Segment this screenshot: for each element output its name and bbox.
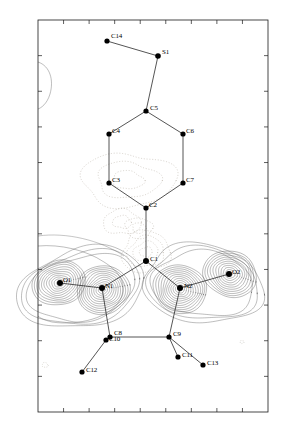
atom-label-C11: C11 <box>182 352 193 359</box>
atom-label-O1: O1 <box>63 277 71 284</box>
atom-label-C1: C1 <box>150 256 158 263</box>
density-map-canvas <box>0 0 282 432</box>
atom-C10 <box>103 337 108 342</box>
atom-label-C6: C6 <box>186 128 194 135</box>
atom-C1 <box>143 258 149 264</box>
atom-label-N2: N2 <box>184 283 192 290</box>
atom-label-C4: C4 <box>112 128 120 135</box>
atom-C6 <box>180 131 185 136</box>
atom-label-S1: S1 <box>162 49 169 56</box>
deformation-density-figure: C14S1C5C4C6C3C7C2C1O1N1N2O2C8C10C9C11C12… <box>0 0 282 432</box>
atom-C7 <box>180 180 185 185</box>
atom-C11 <box>175 354 180 359</box>
atom-C3 <box>106 180 111 185</box>
atom-label-C2: C2 <box>149 202 157 209</box>
atom-N2 <box>177 285 183 291</box>
atom-label-C3: C3 <box>112 177 120 184</box>
atom-C14 <box>104 38 109 43</box>
atom-C13 <box>200 362 205 367</box>
positive-contour-group <box>16 62 264 326</box>
atom-label-N1: N1 <box>105 283 113 290</box>
atom-C4 <box>106 131 111 136</box>
atom-S1 <box>155 53 161 59</box>
atom-label-C7: C7 <box>186 177 194 184</box>
bond-S1-C5 <box>146 56 158 111</box>
atom-C5 <box>143 108 148 113</box>
bond-C9-C11 <box>169 337 178 357</box>
atom-label-O2: O2 <box>232 269 240 276</box>
atom-C9 <box>166 334 171 339</box>
bond-C3-C2 <box>109 183 146 208</box>
bond-C6-C5 <box>146 111 183 134</box>
atom-label-C5: C5 <box>150 105 158 112</box>
atom-label-C12: C12 <box>86 367 97 374</box>
atom-C2 <box>143 205 148 210</box>
atom-label-C14: C14 <box>111 33 122 40</box>
atom-label-C9: C9 <box>173 331 181 338</box>
atom-label-C10: C10 <box>109 336 120 343</box>
atom-C12 <box>79 369 84 374</box>
atom-label-C13: C13 <box>207 360 218 367</box>
bond-C14-S1 <box>107 41 158 56</box>
